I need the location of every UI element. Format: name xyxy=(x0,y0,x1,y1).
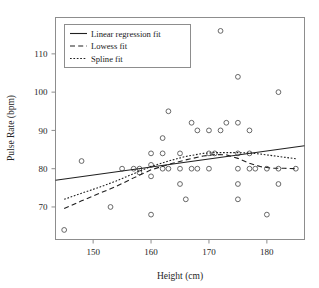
y-tick-label: 90 xyxy=(39,126,49,136)
chart-legend: Linear regression fit Lowess fit Spline … xyxy=(65,25,191,68)
y-axis-label: Pulse Rate (bpm) xyxy=(6,95,17,161)
legend-label-spline-fit: Spline fit xyxy=(91,54,123,64)
pulse-rate-vs-height-scatter-chart: 150160170180 708090100110 Height (cm) Pu… xyxy=(0,0,319,288)
x-tick-label: 160 xyxy=(144,247,158,257)
legend-label-lowess-fit: Lowess fit xyxy=(91,41,128,51)
y-tick-label: 80 xyxy=(39,164,49,174)
x-axis-label: Height (cm) xyxy=(157,271,203,282)
y-tick-label: 100 xyxy=(34,87,48,97)
y-tick-label: 110 xyxy=(34,49,48,59)
legend-label-linear-regression-fit: Linear regression fit xyxy=(91,29,161,39)
x-tick-label: 170 xyxy=(202,247,216,257)
y-tick-label: 70 xyxy=(39,202,49,212)
x-tick-label: 150 xyxy=(86,247,100,257)
x-tick-label: 180 xyxy=(260,247,274,257)
